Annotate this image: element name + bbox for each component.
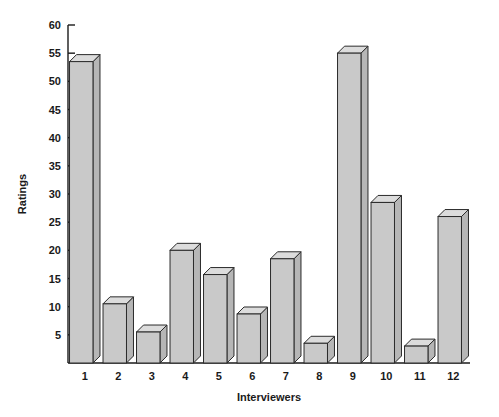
y-tick-label: 30 [49, 188, 61, 200]
bar [371, 195, 401, 363]
bar-side-face [260, 307, 267, 363]
bar-side-face [126, 297, 133, 363]
x-tick-label: 2 [115, 370, 121, 382]
x-tick-label: 7 [283, 370, 289, 382]
y-axis-title: Ratings [16, 174, 28, 214]
bar-side-face [93, 55, 100, 363]
y-tick-label: 60 [49, 19, 61, 31]
x-tick-label: 6 [249, 370, 255, 382]
bar-front-face [405, 346, 428, 363]
bar [438, 210, 468, 363]
bar-side-face [227, 268, 234, 363]
x-tick-label: 9 [350, 370, 356, 382]
y-tick-label: 50 [49, 75, 61, 87]
bar-front-face [271, 259, 294, 363]
y-tick-label: 10 [49, 301, 61, 313]
x-tick-label: 10 [380, 370, 392, 382]
bar [170, 243, 200, 363]
bar-front-face [438, 217, 461, 363]
y-tick-label: 25 [49, 216, 61, 228]
bar-chart: 51015202530354045505560 123456789101112 … [0, 0, 499, 417]
bar-side-face [193, 243, 200, 363]
bar [237, 307, 267, 363]
x-tick-label: 12 [447, 370, 459, 382]
bar-front-face [103, 304, 126, 363]
y-tick-label: 20 [49, 244, 61, 256]
bar-front-face [137, 332, 160, 363]
bar [304, 336, 334, 363]
bar [338, 46, 368, 363]
bar [103, 297, 133, 363]
x-tick-label: 5 [216, 370, 222, 382]
x-tick-label: 11 [414, 370, 426, 382]
bar-side-face [461, 210, 468, 363]
x-tick-label: 3 [149, 370, 155, 382]
x-tick-label: 4 [182, 370, 189, 382]
x-axis-title: Interviewers [237, 391, 301, 403]
y-tick-label: 55 [49, 47, 61, 59]
bar-front-face [338, 53, 361, 363]
bar [271, 252, 301, 363]
bar [137, 325, 167, 363]
x-tick-label: 1 [82, 370, 88, 382]
y-tick-label: 40 [49, 132, 61, 144]
bar [70, 55, 100, 363]
bar [204, 268, 234, 363]
y-tick-label: 45 [49, 104, 61, 116]
bar-side-face [361, 46, 368, 363]
bar-side-face [294, 252, 301, 363]
bar-front-face [304, 343, 327, 363]
bar-front-face [170, 250, 193, 363]
x-tick-label: 8 [316, 370, 322, 382]
bar-side-face [394, 195, 401, 363]
bar-front-face [371, 202, 394, 363]
y-tick-label: 5 [55, 329, 61, 341]
bar-front-face [204, 275, 227, 363]
bar-front-face [237, 314, 260, 363]
chart-canvas: 51015202530354045505560 123456789101112 … [0, 0, 499, 417]
y-tick-label: 35 [49, 160, 61, 172]
bar-front-face [70, 62, 93, 363]
bar [405, 339, 435, 363]
y-tick-label: 15 [49, 273, 61, 285]
